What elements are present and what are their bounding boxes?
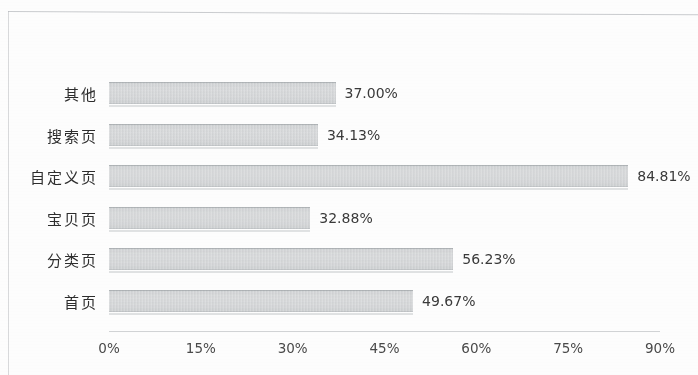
x-axis-tick-label: 90% xyxy=(645,340,675,356)
x-axis-tick-label: 75% xyxy=(553,340,583,356)
category-label: 分类页 xyxy=(47,249,98,270)
x-axis-tick-label: 60% xyxy=(461,340,491,356)
category-label: 宝贝页 xyxy=(47,207,98,228)
category-label: 其他 xyxy=(64,83,98,104)
bar-value-label: 37.00% xyxy=(345,85,398,101)
category-label: 搜索页 xyxy=(47,124,98,145)
bar-row: 搜索页 34.13% xyxy=(109,124,660,146)
category-label: 自定义页 xyxy=(30,166,98,187)
bar xyxy=(109,290,413,312)
x-axis: 0% 15% 30% 45% 60% 75% 90% xyxy=(109,340,660,364)
x-axis-baseline xyxy=(109,331,660,332)
bar-row: 自定义页 84.81% xyxy=(109,165,660,187)
x-axis-tick-label: 45% xyxy=(369,340,399,356)
plot-area: 其他 37.00% 搜索页 34.13% 自定义页 84.81% 宝贝页 32.… xyxy=(109,78,660,330)
bar-row: 其他 37.00% xyxy=(109,82,660,104)
category-label: 首页 xyxy=(64,290,98,311)
bar-value-label: 84.81% xyxy=(637,168,690,184)
bar xyxy=(109,207,310,229)
bar xyxy=(109,248,453,270)
chart-frame-top-border xyxy=(8,11,698,15)
x-axis-tick-label: 15% xyxy=(186,340,216,356)
bar xyxy=(109,124,318,146)
bar-value-label: 32.88% xyxy=(319,210,372,226)
bar-row: 分类页 56.23% xyxy=(109,248,660,270)
bar-value-label: 56.23% xyxy=(462,251,515,267)
bar-row: 首页 49.67% xyxy=(109,290,660,312)
bar xyxy=(109,165,628,187)
x-axis-tick-label: 0% xyxy=(98,340,119,356)
bar-value-label: 34.13% xyxy=(327,127,380,143)
bar-row: 宝贝页 32.88% xyxy=(109,207,660,229)
bar-value-label: 49.67% xyxy=(422,293,475,309)
bar xyxy=(109,82,336,104)
chart-frame-left-border xyxy=(8,11,9,375)
bar-chart: 其他 37.00% 搜索页 34.13% 自定义页 84.81% 宝贝页 32.… xyxy=(0,0,698,375)
x-axis-tick-label: 30% xyxy=(278,340,308,356)
